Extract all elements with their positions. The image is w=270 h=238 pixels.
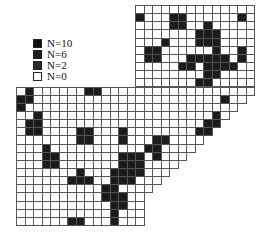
grid-cell [229,103,239,112]
swatch-n0 [33,72,42,81]
grid-cell [186,144,196,153]
grid-cell [161,168,171,177]
grid-cell [169,160,179,169]
legend-item-n0: N=0 [33,70,67,82]
grid-cell [135,217,145,226]
grid-cell [220,111,230,120]
swatch-n10 [33,39,42,48]
legend-label: N=0 [47,70,67,82]
grid-cell [152,176,162,185]
grid-cell [246,87,256,96]
swatch-n6 [33,50,42,59]
grid-map-figure: N=10 N=6 N=2 N=0 [0,0,270,238]
grid-cell [178,152,188,161]
swatch-n2 [33,61,42,70]
grid-cell [212,119,222,128]
grid-cell [144,184,154,193]
grid-cell [237,95,247,104]
grid-cell [195,135,205,144]
grid-cell [203,127,213,136]
